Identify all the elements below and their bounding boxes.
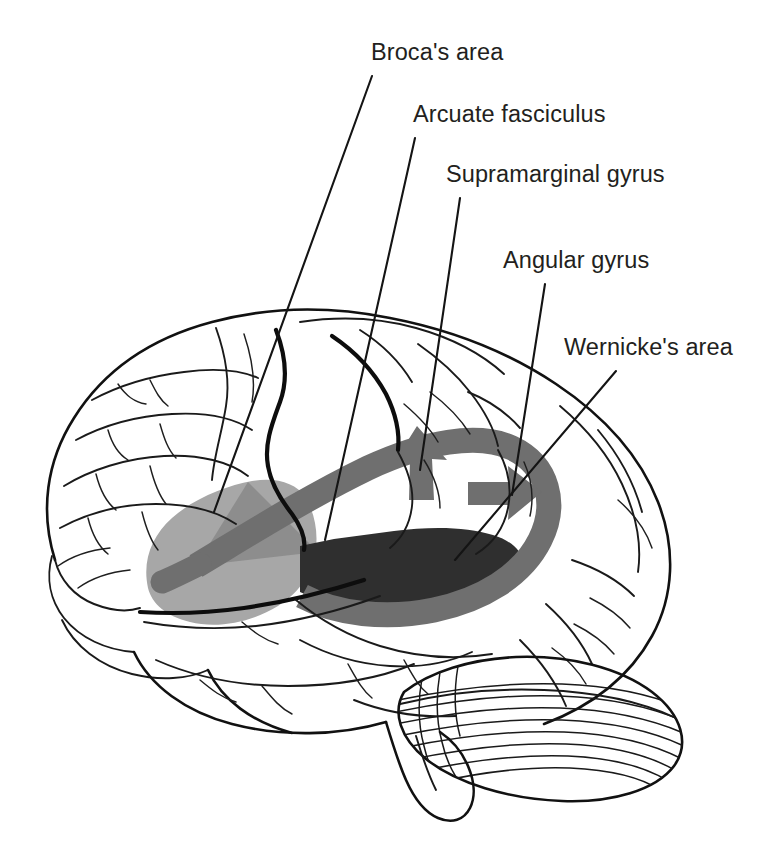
annotation-labels: Broca's area Arcuate fasciculus Supramar… xyxy=(371,39,734,360)
brain-language-areas-figure: Broca's area Arcuate fasciculus Supramar… xyxy=(0,0,775,852)
brain-illustration xyxy=(47,310,692,821)
label-arcuate-fasciculus: Arcuate fasciculus xyxy=(413,101,606,127)
temporal-lobe-gyri xyxy=(156,622,472,716)
label-wernickes-area: Wernicke's area xyxy=(564,334,734,360)
label-brocas-area: Broca's area xyxy=(371,39,504,65)
label-supramarginal-gyrus: Supramarginal gyrus xyxy=(446,161,665,187)
label-angular-gyrus: Angular gyrus xyxy=(503,247,649,273)
leader-brocas-area xyxy=(214,76,372,512)
cerebellar-folia xyxy=(396,666,692,792)
brainstem xyxy=(386,722,474,821)
cerebellum xyxy=(396,657,692,801)
brain-diagram-svg: Broca's area Arcuate fasciculus Supramar… xyxy=(0,0,775,852)
